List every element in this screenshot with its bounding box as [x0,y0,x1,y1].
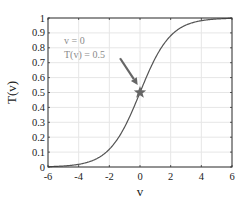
x-tick-label: 2 [168,171,173,182]
x-tick-label: 6 [229,171,234,182]
y-tick-label: 0.3 [32,117,45,128]
x-axis-label: v [137,184,144,199]
x-tick-label: 0 [137,171,142,182]
x-tick-label: -6 [44,171,53,182]
y-tick-label: 0.8 [32,42,45,53]
sigmoid-chart: -6-4-2024600.10.20.30.40.50.60.70.80.91 … [0,0,246,203]
annotation-tv: T(v) = 0.5 [64,49,105,61]
y-tick-label: 0.2 [32,132,45,143]
y-tick-label: 0.5 [32,87,45,98]
y-tick-label: 0 [40,162,45,173]
annotation-v: v = 0 [64,35,85,46]
x-tick-label: -4 [74,171,83,182]
y-tick-label: 0.9 [32,27,45,38]
x-tick-label: -2 [105,171,114,182]
y-tick-label: 0.6 [32,72,45,83]
tick-labels: -6-4-2024600.10.20.30.40.50.60.70.80.91 [32,13,235,183]
y-axis-label: T(v) [4,81,19,104]
x-tick-label: 4 [199,171,205,182]
y-tick-label: 0.7 [32,57,45,68]
y-tick-label: 0.1 [32,147,45,158]
y-tick-label: 1 [40,13,45,24]
y-tick-label: 0.4 [32,102,46,113]
